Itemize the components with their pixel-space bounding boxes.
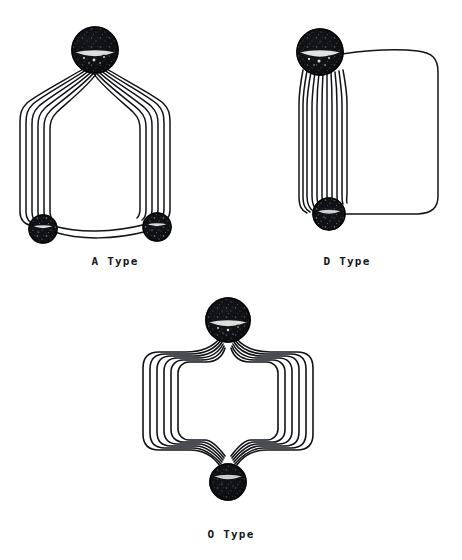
- d-type-top-node: [297, 29, 343, 75]
- d-type-bottom-node: [313, 198, 345, 230]
- label-o-type: O Type: [116, 528, 346, 541]
- o-type-bottom-node: [210, 464, 246, 500]
- label-a-type: A Type: [0, 255, 230, 268]
- a-type-bottom-right-node: [143, 213, 171, 241]
- coil-type-figure: [0, 0, 462, 560]
- label-d-type: D Type: [232, 255, 462, 268]
- a-type-apex-node: [72, 27, 118, 73]
- figure-page: { "figure": { "background_color": "#ffff…: [0, 0, 462, 560]
- a-type-bottom-left-node: [29, 215, 57, 243]
- o-type-top-node: [206, 298, 250, 342]
